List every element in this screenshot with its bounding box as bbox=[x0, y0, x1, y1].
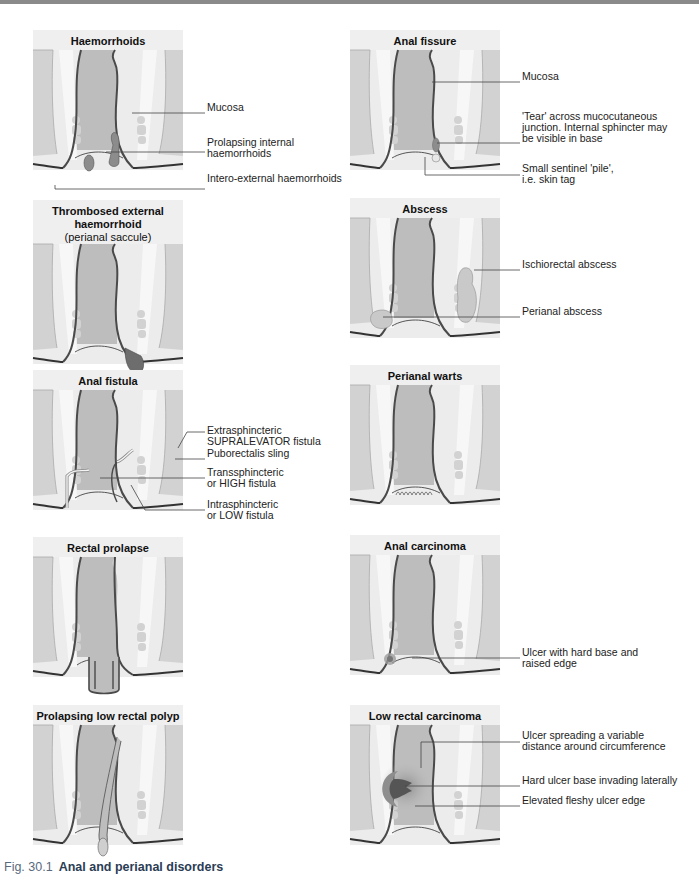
annotation-label: Puborectalis sling bbox=[207, 448, 289, 459]
annotation-label: Mucosa bbox=[522, 71, 559, 82]
annotation-label: Transsphincteric or HIGH fistula bbox=[207, 467, 284, 489]
panel-title-text: Haemorrhoids bbox=[71, 35, 146, 47]
panel-subtitle: (perianal saccule) bbox=[33, 231, 183, 244]
panel-title: Anal fistula bbox=[33, 370, 183, 390]
panel-title-text: Anal carcinoma bbox=[384, 540, 466, 552]
anatomy-illustration bbox=[33, 244, 183, 384]
annotation-label: Perianal abscess bbox=[522, 306, 602, 317]
panel-title-text: Thrombosed external haemorrhoid bbox=[52, 205, 164, 230]
panel-title: Haemorrhoids bbox=[33, 30, 183, 50]
panel-title: Prolapsing low rectal polyp bbox=[33, 705, 183, 725]
annotation-label: Intrasphincteric or LOW fistula bbox=[207, 499, 278, 521]
annotation-label: Mucosa bbox=[207, 102, 244, 113]
annotation-label: Hard ulcer base invading laterally bbox=[522, 775, 677, 786]
panel-title: Anal fissure bbox=[350, 30, 500, 50]
annotation-label: Elevated fleshy ulcer edge bbox=[522, 795, 645, 806]
anatomy-illustration bbox=[350, 725, 500, 865]
annotation-label: Small sentinel 'pile', i.e. skin tag bbox=[522, 163, 614, 185]
panel-title-text: Rectal prolapse bbox=[67, 542, 149, 554]
figure-caption: Fig. 30.1Anal and perianal disorders bbox=[4, 860, 223, 874]
annotation-label: Intero-external haemorrhoids bbox=[207, 173, 342, 184]
panel-title-text: Anal fissure bbox=[394, 35, 457, 47]
panel-title-text: Prolapsing low rectal polyp bbox=[36, 710, 179, 722]
anatomy-illustration bbox=[350, 50, 500, 190]
top-rule bbox=[0, 0, 699, 4]
annotation-label: Ischiorectal abscess bbox=[522, 259, 617, 270]
panel-title: Anal carcinoma bbox=[350, 535, 500, 555]
panel-title: Thrombosed external haemorrhoid(perianal… bbox=[33, 200, 183, 244]
annotation-label: Extrasphincteric SUPRALEVATOR fistula bbox=[207, 425, 321, 447]
panel-title-text: Perianal warts bbox=[388, 370, 463, 382]
panel-title: Low rectal carcinoma bbox=[350, 705, 500, 725]
anatomy-illustration bbox=[350, 555, 500, 695]
caption-title: Anal and perianal disorders bbox=[59, 860, 224, 874]
anatomy-illustration bbox=[33, 50, 183, 190]
annotation-label: Ulcer with hard base and raised edge bbox=[522, 647, 638, 669]
annotation-label: Ulcer spreading a variable distance arou… bbox=[522, 730, 666, 752]
panel-title-text: Low rectal carcinoma bbox=[369, 710, 482, 722]
anatomy-illustration bbox=[33, 557, 183, 697]
anatomy-illustration bbox=[350, 385, 500, 525]
panel-title: Abscess bbox=[350, 198, 500, 218]
panel-title-text: Abscess bbox=[402, 203, 447, 215]
panel-title: Perianal warts bbox=[350, 365, 500, 385]
anatomy-illustration bbox=[33, 725, 183, 865]
annotation-label: Prolapsing internal haemorrhoids bbox=[207, 137, 294, 159]
anatomy-illustration bbox=[350, 218, 500, 358]
annotation-label: 'Tear' across mucocutaneous junction. In… bbox=[522, 111, 667, 144]
caption-number: Fig. 30.1 bbox=[4, 860, 53, 874]
panel-title: Rectal prolapse bbox=[33, 537, 183, 557]
anatomy-illustration bbox=[33, 390, 183, 530]
panel-title-text: Anal fistula bbox=[78, 375, 137, 387]
